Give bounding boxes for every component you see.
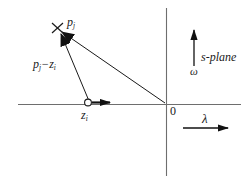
- difference-label-sub1: j: [39, 63, 41, 72]
- pole-marker-cross: [52, 23, 63, 33]
- s-plane-diagram: pj pj−zi zi 0 s-plane ω λ: [0, 0, 248, 181]
- zero-label-base: z: [81, 108, 86, 122]
- difference-label-sub2: i: [54, 63, 56, 72]
- pole-label: pj: [67, 16, 75, 28]
- plane-label: s-plane: [201, 51, 236, 63]
- difference-label-operator: −: [41, 57, 49, 71]
- zero-to-pole-vector: [61, 34, 89, 101]
- pole-label-subscript: j: [73, 21, 75, 30]
- lambda-axis-label: λ: [202, 112, 208, 125]
- zero-marker-circle: [85, 99, 92, 106]
- origin-to-pole-vector: [62, 32, 165, 103]
- omega-axis-label: ω: [190, 66, 198, 77]
- zero-label-subscript: i: [86, 114, 88, 123]
- origin-label: 0: [170, 105, 176, 117]
- difference-vector-label: pj−zi: [33, 58, 56, 70]
- zero-label: zi: [81, 109, 88, 121]
- diagram-canvas: [0, 0, 248, 181]
